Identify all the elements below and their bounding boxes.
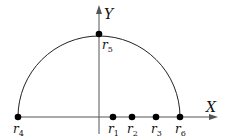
point-r4 — [15, 114, 22, 121]
point-r2 — [129, 114, 136, 121]
point-label-r6: r6 — [175, 122, 186, 138]
semicircle-diagram: X Y r1r2r3r4r5r6 — [0, 0, 230, 138]
point-r3 — [153, 114, 160, 121]
point-label-r5: r5 — [102, 38, 113, 54]
point-label-r3: r3 — [151, 122, 162, 138]
x-axis-label: X — [205, 99, 217, 115]
point-r5 — [96, 31, 103, 38]
y-axis-arrow-icon — [96, 5, 102, 14]
y-axis-label: Y — [104, 6, 115, 22]
point-r1 — [110, 114, 117, 121]
point-label-r2: r2 — [127, 122, 138, 138]
point-r6 — [177, 114, 184, 121]
point-label-r1: r1 — [108, 122, 119, 138]
point-label-r4: r4 — [13, 122, 24, 138]
